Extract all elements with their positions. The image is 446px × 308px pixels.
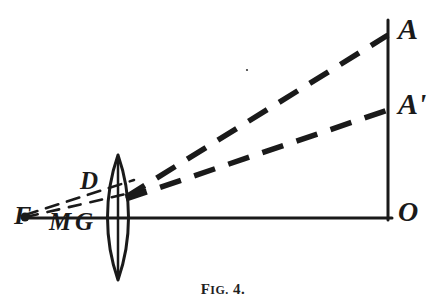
- label-d: D: [80, 168, 98, 193]
- refracted-ray-to-a-prime: [126, 110, 388, 199]
- optical-diagram: [0, 0, 446, 308]
- caption-small-caps: IG.: [210, 283, 229, 297]
- figure-caption: FIG. 4.: [0, 281, 446, 298]
- figure-container: A A' O D F M G FIG. 4.: [0, 0, 446, 308]
- scan-speck: [246, 69, 248, 71]
- label-a: A: [398, 14, 418, 44]
- label-g: G: [75, 209, 93, 234]
- caption-number: 4.: [233, 281, 245, 297]
- label-m: M: [49, 209, 71, 234]
- label-a-prime: A': [398, 89, 426, 119]
- caption-prefix: F: [201, 281, 211, 297]
- label-f: F: [14, 203, 31, 229]
- label-o: O: [398, 198, 418, 226]
- refracted-ray-to-a: [126, 35, 388, 197]
